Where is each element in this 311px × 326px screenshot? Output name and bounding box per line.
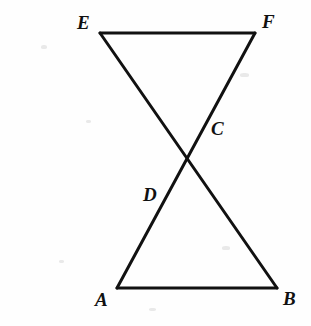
- vertex-label-D: D: [143, 185, 157, 204]
- vertex-label-F: F: [262, 12, 275, 31]
- vertex-label-E: E: [77, 13, 90, 32]
- vertex-label-C: C: [211, 119, 224, 138]
- vertex-label-A: A: [95, 290, 108, 309]
- geometry-figure: E F C D A B: [0, 0, 311, 326]
- segment-FA: [117, 33, 255, 288]
- segment-EB: [100, 33, 277, 288]
- geometry-canvas: [0, 0, 311, 326]
- vertex-label-B: B: [283, 289, 296, 308]
